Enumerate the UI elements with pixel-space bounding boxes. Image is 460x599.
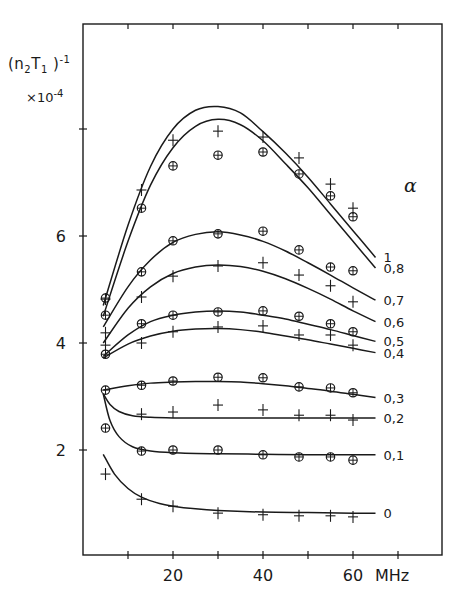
curve-alpha-0-8 [103, 119, 375, 316]
curve-label: 0,6 [384, 315, 405, 330]
legend-title-alpha: α [404, 174, 417, 196]
data-markers [101, 125, 359, 523]
y-label-sup: -1 [59, 54, 70, 65]
y-label-sub2: 1 [41, 64, 48, 75]
curve-label: 0,1 [384, 448, 405, 463]
curve-alpha-0 [103, 454, 375, 513]
x-tick-label: 20 [163, 566, 183, 585]
y-label-base: (n [8, 55, 24, 73]
plot-frame [83, 24, 442, 555]
axis-tick-labels: 204060246 [56, 227, 363, 585]
fitted-curves [103, 106, 375, 513]
y-axis-label: (n2T1 )-1 [8, 54, 70, 75]
curve-label: 0 [384, 506, 392, 521]
curve-alpha-0-1 [103, 394, 375, 455]
y-label-mid: T [31, 55, 41, 73]
curve-label: 0,8 [384, 261, 405, 276]
y-tick-label: 6 [56, 227, 66, 246]
y-axis-scale: ×10-4 [26, 88, 63, 105]
x-tick-label: 60 [343, 566, 363, 585]
curve-label: 0,7 [384, 293, 405, 308]
chart-canvas: 204060246 10,80,70,60,50,40,30,20,10 α M… [0, 0, 460, 599]
curve-alpha-0-5 [103, 311, 375, 356]
curve-labels: 10,80,70,60,50,40,30,20,10 [384, 250, 405, 521]
curve-label: 0,3 [384, 391, 405, 406]
y-tick-label: 2 [56, 441, 66, 460]
plot-border [83, 24, 442, 555]
curve-alpha-0-7 [103, 232, 375, 327]
curve-label: 0,4 [384, 346, 405, 361]
axis-ticks [79, 24, 398, 559]
curve-label: 0,2 [384, 411, 405, 426]
y-label-close: ) [48, 55, 60, 73]
y-tick-label: 4 [56, 334, 66, 353]
y-scale-base: ×10 [26, 90, 53, 105]
y-scale-exp: -4 [53, 88, 63, 99]
x-tick-label: 40 [253, 566, 273, 585]
x-axis-label: MHz [375, 566, 409, 585]
